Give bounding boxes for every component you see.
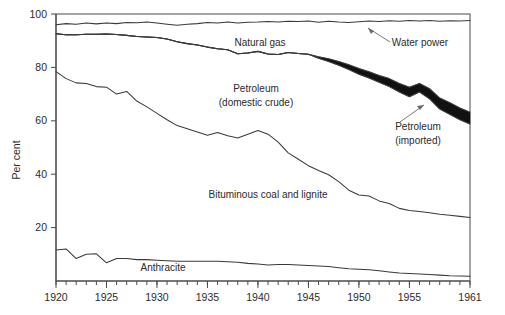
y-axis-tick-labels: 10080604020 (29, 8, 47, 234)
y-axis-title: Per cent (10, 140, 22, 179)
label-anthracite: Anthracite (140, 262, 185, 273)
x-axis-minor-ticks (56, 281, 470, 285)
x-tick-label: 1945 (297, 291, 321, 303)
x-axis-tick-labels: 192019251930193519401945195019551961 (44, 291, 482, 303)
x-tick-label: 1961 (458, 291, 482, 303)
series-line (56, 249, 470, 276)
y-tick-label: 80 (35, 61, 47, 73)
water-power-arrowhead (368, 28, 374, 34)
y-tick-label: 60 (35, 114, 47, 126)
x-tick-label: 1925 (95, 291, 119, 303)
series-line (56, 20, 470, 25)
label-petroleum-imported-line1: Petroleum (395, 121, 441, 132)
x-tick-label: 1930 (145, 291, 169, 303)
x-tick-label: 1955 (398, 291, 422, 303)
label-petroleum-domestic-crude-line1: Petroleum (233, 83, 279, 94)
label-water-power: Water power (392, 37, 449, 48)
y-tick-label: 100 (29, 8, 47, 20)
chart-page: 10080604020 1920192519301935194019451950… (0, 0, 505, 315)
x-tick-label: 1950 (347, 291, 371, 303)
x-tick-label: 1920 (44, 291, 68, 303)
x-axis-major-ticks (56, 281, 470, 288)
label-natural-gas: Natural gas (234, 37, 285, 48)
x-tick-label: 1940 (246, 291, 270, 303)
series-boundary-lines (56, 20, 470, 276)
plot-frame (56, 14, 470, 281)
label-petroleum-imported-line2: (imported) (395, 135, 441, 146)
energy-sources-area-chart: 10080604020 1920192519301935194019451950… (0, 0, 505, 315)
label-bituminous-coal-and-lignite: Bituminous coal and lignite (209, 189, 328, 200)
label-petroleum-domestic-crude-line2: (domestic crude) (219, 97, 293, 108)
y-axis-ticks (51, 14, 56, 228)
y-tick-label: 20 (35, 221, 47, 233)
x-tick-label: 1935 (196, 291, 220, 303)
y-tick-label: 40 (35, 168, 47, 180)
